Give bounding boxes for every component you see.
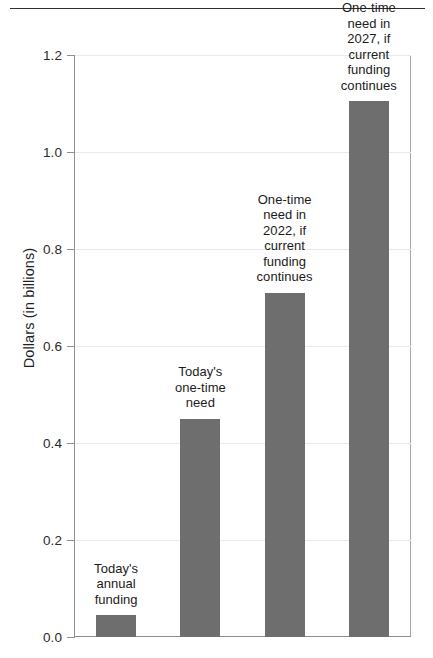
bar-label: One-time need in 2022, if current fundin… xyxy=(239,192,331,285)
bar-label: Today's annual funding xyxy=(70,561,162,608)
y-axis-title: Dollars (in billions) xyxy=(21,178,37,438)
bar xyxy=(349,101,389,637)
gridline xyxy=(74,637,411,638)
y-tick-label: 1.0 xyxy=(0,145,62,160)
y-tick-label: 0.2 xyxy=(0,533,62,548)
bar xyxy=(180,419,220,637)
y-tick-label: 0.0 xyxy=(0,630,62,645)
y-tick-label: 1.2 xyxy=(0,48,62,63)
plot-area xyxy=(74,55,411,637)
bar-chart-figure: 0.00.20.40.60.81.01.2 Dollars (in billio… xyxy=(0,0,433,658)
y-tick-mark xyxy=(67,637,75,638)
bar xyxy=(265,293,305,637)
bar-label: Today's one-time need xyxy=(154,364,246,411)
bar xyxy=(96,615,136,637)
bar-label: One-time need in 2027, if current fundin… xyxy=(323,0,415,93)
